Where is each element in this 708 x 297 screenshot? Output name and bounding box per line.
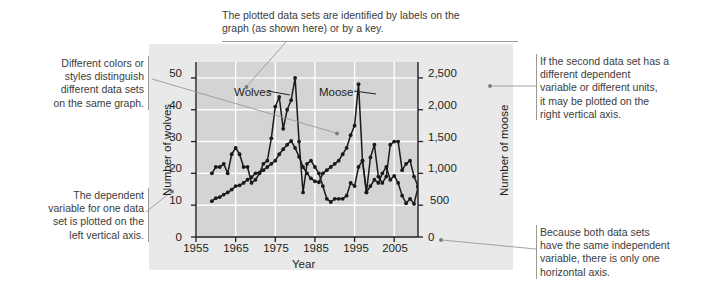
data-point-wolves	[408, 159, 412, 163]
data-point-moose	[317, 180, 321, 184]
data-point-moose	[337, 159, 341, 163]
data-point-moose	[242, 181, 246, 185]
data-point-wolves	[412, 175, 416, 179]
data-point-wolves	[384, 175, 388, 179]
data-point-moose	[210, 199, 214, 203]
data-point-moose	[412, 202, 416, 206]
data-point-moose	[254, 171, 258, 175]
data-point-wolves	[234, 146, 238, 150]
data-point-moose	[277, 152, 281, 156]
data-point-wolves	[353, 184, 357, 188]
y2tick-label-1000: 1,000	[428, 163, 457, 175]
data-point-wolves	[309, 159, 313, 163]
ytick-label-50: 50	[160, 68, 182, 80]
data-point-wolves	[246, 165, 250, 169]
data-point-moose	[218, 195, 222, 199]
data-point-wolves	[289, 98, 293, 102]
data-point-moose	[361, 159, 365, 163]
data-point-moose	[313, 179, 317, 183]
data-point-wolves	[392, 140, 396, 144]
data-point-moose	[388, 178, 392, 182]
data-point-moose	[238, 183, 242, 187]
data-point-moose	[273, 159, 277, 163]
data-point-wolves	[341, 197, 345, 201]
data-point-moose	[281, 147, 285, 151]
data-point-wolves	[250, 181, 254, 185]
callout-right-axis-text: If the second data set has a different d…	[540, 55, 700, 121]
ytick-label-10: 10	[160, 195, 182, 207]
data-point-moose	[309, 177, 313, 181]
data-point-wolves	[214, 165, 218, 169]
data-point-wolves	[273, 105, 277, 109]
gridlines	[196, 62, 418, 237]
callout-labels-rule	[222, 41, 518, 42]
data-point-moose	[301, 165, 305, 169]
data-point-moose	[222, 193, 226, 197]
data-point-wolves	[281, 127, 285, 131]
data-point-wolves	[269, 136, 273, 140]
xtick-label-1995: 1995	[336, 243, 376, 255]
data-point-moose	[289, 139, 293, 143]
callout-left-axis-text: The dependent variable for one data set …	[16, 189, 144, 242]
callout-right-axis-rule	[536, 54, 537, 120]
data-point-wolves	[372, 143, 376, 147]
data-point-moose	[269, 162, 273, 166]
xtick-label-1955: 1955	[176, 243, 216, 255]
data-point-wolves	[317, 171, 321, 175]
data-point-wolves	[293, 76, 297, 80]
data-point-moose	[258, 171, 262, 175]
data-point-wolves	[222, 162, 226, 166]
xtick-label-1985: 1985	[296, 243, 336, 255]
data-point-wolves	[349, 181, 353, 185]
callout-styles-rule	[148, 56, 149, 110]
series-label-wolves: Wolves	[234, 87, 272, 99]
data-point-moose	[261, 168, 265, 172]
data-point-moose	[380, 171, 384, 175]
data-point-wolves	[242, 165, 246, 169]
callout-labels-text: The plotted data sets are identified by …	[222, 9, 522, 35]
data-point-wolves	[218, 165, 222, 169]
data-point-wolves	[301, 191, 305, 195]
y2tick-label-0: 0	[428, 232, 434, 244]
data-point-moose	[353, 124, 357, 128]
data-point-wolves	[400, 168, 404, 172]
data-point-moose	[404, 201, 408, 205]
right-axis-title: Number of moose	[499, 105, 511, 196]
plot-canvas	[196, 62, 418, 237]
callout-left-axis-rule	[148, 188, 149, 242]
data-point-wolves	[297, 140, 301, 144]
data-point-wolves	[380, 181, 384, 185]
callout-styles-text: Different colors or styles distinguish d…	[22, 57, 144, 110]
data-point-moose	[333, 162, 337, 166]
y2tick-label-1500: 1,500	[428, 132, 457, 144]
data-point-wolves	[265, 159, 269, 163]
data-point-moose	[305, 171, 309, 175]
data-point-moose	[349, 133, 353, 137]
data-point-moose	[329, 165, 333, 169]
data-point-wolves	[357, 165, 361, 169]
x-axis-title: Year	[292, 259, 315, 271]
data-point-wolves	[238, 152, 242, 156]
data-point-wolves	[337, 197, 341, 201]
series-label-moose: Moose	[319, 87, 354, 99]
data-point-moose	[246, 178, 250, 182]
xtick-label-2005: 2005	[375, 243, 415, 255]
data-point-moose	[214, 196, 218, 200]
data-point-wolves	[226, 171, 230, 175]
y2tick-label-2500: 2,500	[428, 68, 457, 80]
y2tick-label-500: 500	[430, 195, 449, 207]
data-point-moose	[408, 197, 412, 201]
data-point-moose	[372, 178, 376, 182]
data-point-wolves	[321, 184, 325, 188]
data-point-wolves	[305, 162, 309, 166]
data-point-moose	[396, 181, 400, 185]
data-point-moose	[265, 165, 269, 169]
data-point-wolves	[369, 156, 373, 160]
data-point-moose	[384, 165, 388, 169]
data-point-moose	[234, 184, 238, 188]
data-point-wolves	[325, 197, 329, 201]
data-point-wolves	[261, 162, 265, 166]
data-point-moose	[376, 181, 380, 185]
data-point-moose	[325, 168, 329, 172]
data-point-moose	[321, 171, 325, 175]
